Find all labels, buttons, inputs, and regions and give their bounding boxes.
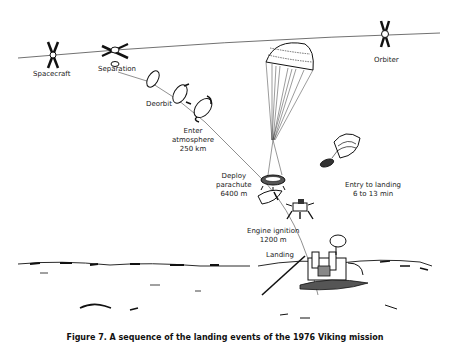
label-line: parachute xyxy=(216,181,252,190)
inset-parachute-icon xyxy=(319,134,360,169)
label-line: 6400 m xyxy=(216,190,252,199)
label-separation: Separation xyxy=(98,65,136,74)
label-enter-atmosphere: Enter atmosphere 250 km xyxy=(172,127,214,154)
label-line: 1200 m xyxy=(247,236,299,245)
label-engine-ignition: Engine ignition 1200 m xyxy=(247,227,299,245)
lander-descent-icon xyxy=(261,175,285,191)
label-landing: Landing xyxy=(266,251,294,260)
label-deploy-parachute: Deploy parachute 6400 m xyxy=(216,172,252,199)
parachute-icon xyxy=(266,43,313,175)
engine-ignition-lander-icon xyxy=(286,199,314,219)
label-line: 250 km xyxy=(172,145,214,154)
label-line: Entry to landing xyxy=(345,181,401,190)
label-spacecraft: Spacecraft xyxy=(33,70,70,79)
label-deorbit: Deorbit xyxy=(146,100,172,109)
label-line: Engine ignition xyxy=(247,227,299,236)
aeroshell-icon xyxy=(258,190,282,204)
spacecraft-icon xyxy=(48,42,58,68)
martian-surface xyxy=(18,260,432,318)
orbit-path xyxy=(18,33,440,58)
figure-caption: Figure 7. A sequence of the landing even… xyxy=(0,333,450,342)
entry-capsule-icon xyxy=(191,95,216,122)
label-line: Deploy xyxy=(216,172,252,181)
label-line: Enter xyxy=(172,127,214,136)
label-line: 6 to 13 min xyxy=(345,190,401,199)
separation-icon xyxy=(102,44,128,67)
label-orbiter: Orbiter xyxy=(374,56,399,65)
label-line: atmosphere xyxy=(172,136,214,145)
label-entry-to-landing: Entry to landing 6 to 13 min xyxy=(345,181,401,199)
orbiter-icon xyxy=(381,21,389,47)
